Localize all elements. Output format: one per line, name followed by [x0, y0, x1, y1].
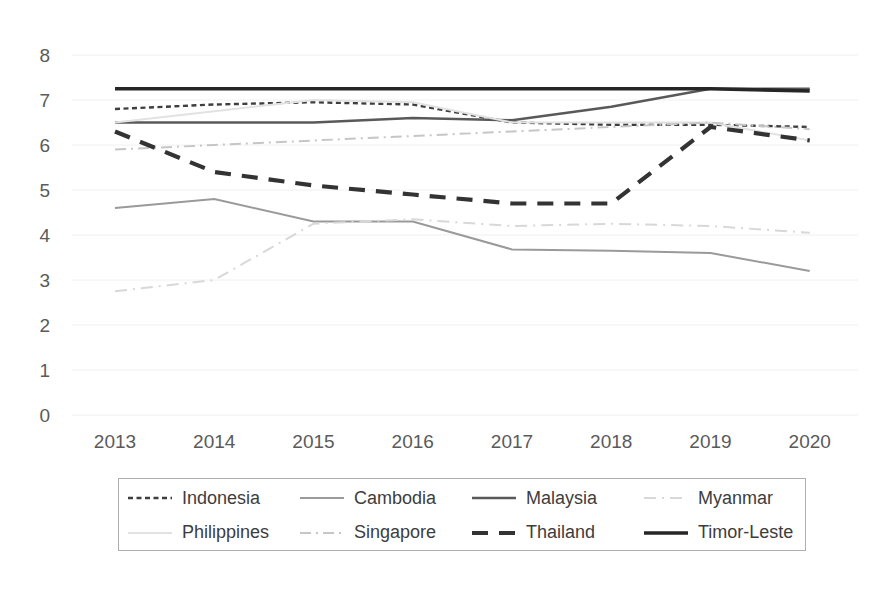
legend-swatch-icon	[299, 491, 345, 505]
gridlines-group	[72, 55, 858, 415]
y-tick-label: 5	[39, 180, 50, 201]
legend-swatch-icon	[471, 526, 517, 540]
y-axis-tick-labels: 012345678	[39, 45, 50, 426]
legend-item-label: Singapore	[354, 522, 436, 543]
y-tick-label: 7	[39, 90, 50, 111]
series-line	[115, 89, 810, 123]
legend-swatch-icon	[643, 526, 689, 540]
legend-item-label: Thailand	[526, 522, 595, 543]
legend-item[interactable]: Malaysia	[463, 488, 635, 509]
x-tick-label: 2015	[292, 431, 334, 452]
legend-swatch-icon	[127, 526, 173, 540]
line-chart: 012345678 201320142015201620172018201920…	[0, 0, 878, 600]
legend-item[interactable]: Timor-Leste	[635, 522, 807, 543]
legend-swatch-icon	[643, 491, 689, 505]
legend-item-label: Indonesia	[182, 488, 260, 509]
y-tick-label: 4	[39, 225, 50, 246]
x-tick-label: 2019	[689, 431, 731, 452]
y-tick-label: 8	[39, 45, 50, 66]
legend-item[interactable]: Myanmar	[635, 488, 807, 509]
x-tick-label: 2018	[590, 431, 632, 452]
legend-item[interactable]: Cambodia	[291, 488, 463, 509]
legend-item-label: Cambodia	[354, 488, 436, 509]
x-tick-label: 2017	[491, 431, 533, 452]
x-tick-label: 2016	[392, 431, 434, 452]
y-tick-label: 6	[39, 135, 50, 156]
legend-item-label: Philippines	[182, 522, 269, 543]
legend-item-label: Myanmar	[698, 488, 773, 509]
y-tick-label: 3	[39, 270, 50, 291]
legend-item[interactable]: Philippines	[119, 522, 291, 543]
x-tick-label: 2014	[193, 431, 236, 452]
x-tick-label: 2020	[789, 431, 831, 452]
legend-swatch-icon	[471, 491, 517, 505]
x-axis-tick-labels: 20132014201520162017201820192020	[94, 431, 831, 452]
series-line	[115, 127, 810, 204]
legend-item-label: Timor-Leste	[698, 522, 793, 543]
legend-item[interactable]: Singapore	[291, 522, 463, 543]
legend-item-label: Malaysia	[526, 488, 597, 509]
y-tick-label: 1	[39, 360, 50, 381]
x-tick-label: 2013	[94, 431, 136, 452]
legend-item[interactable]: Indonesia	[119, 488, 291, 509]
y-tick-label: 0	[39, 405, 50, 426]
legend-swatch-icon	[299, 526, 345, 540]
legend-item[interactable]: Thailand	[463, 522, 635, 543]
chart-legend: IndonesiaCambodiaMalaysiaMyanmarPhilippi…	[118, 478, 806, 551]
legend-swatch-icon	[127, 491, 173, 505]
y-tick-label: 2	[39, 315, 50, 336]
